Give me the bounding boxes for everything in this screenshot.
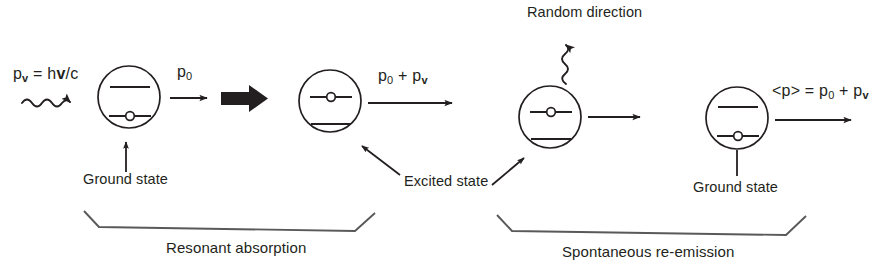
ground-state-left-text: Ground state (83, 171, 168, 187)
emitted-photon-wave-arrow (562, 45, 568, 84)
random-direction-text: Random direction (527, 4, 642, 20)
photon-absorption-emission-diagram: pv = hv/c p0 p0 + pv <p> = p0 + pv Groun… (0, 0, 886, 277)
label-atom-momentum-after-absorption: p0 + pv (378, 68, 428, 86)
electron-marker (734, 132, 743, 141)
caption-spontaneous-re-emission: Spontaneous re-emission (562, 244, 734, 259)
atom-momentum-initial-text: p0 (177, 63, 192, 80)
process-arrow-bold (221, 85, 268, 112)
label-ground-state-right: Ground state (693, 180, 778, 195)
ground-state-right-text: Ground state (693, 179, 778, 195)
label-ground-state-left: Ground state (83, 172, 168, 187)
atom-1-ground (98, 66, 160, 128)
mean-momentum-text: <p> = p0 + pv (772, 82, 869, 99)
label-random-direction: Random direction (527, 5, 642, 20)
atom-2-excited (299, 70, 361, 132)
caption-resonant-absorption-text: Resonant absorption (166, 239, 306, 256)
label-atom-momentum-initial: p0 (177, 64, 192, 82)
electron-marker (547, 108, 556, 117)
caption-spontaneous-re-emission-text: Spontaneous re-emission (562, 243, 734, 260)
incoming-photon-wave-arrow (22, 100, 70, 107)
label-mean-momentum: <p> = p0 + pv (772, 83, 869, 101)
brace-spontaneous-re-emission (497, 215, 806, 235)
photon-momentum-text: pv = hv/c (13, 65, 78, 82)
brace-resonant-absorption (84, 211, 375, 231)
electron-marker (126, 112, 135, 121)
caption-resonant-absorption: Resonant absorption (166, 240, 306, 255)
excited-state-text: Excited state (404, 173, 488, 189)
atom-3-excited (519, 86, 581, 148)
electron-marker (327, 93, 336, 102)
label-photon-momentum: pv = hv/c (13, 66, 78, 84)
atom-momentum-after-absorption-text: p0 + pv (378, 67, 428, 84)
leader-excited-state-b (492, 158, 524, 185)
diagram-canvas (0, 0, 886, 277)
leader-excited-state-a (362, 146, 400, 175)
atom-4-ground (706, 87, 768, 149)
label-excited-state: Excited state (404, 174, 488, 189)
